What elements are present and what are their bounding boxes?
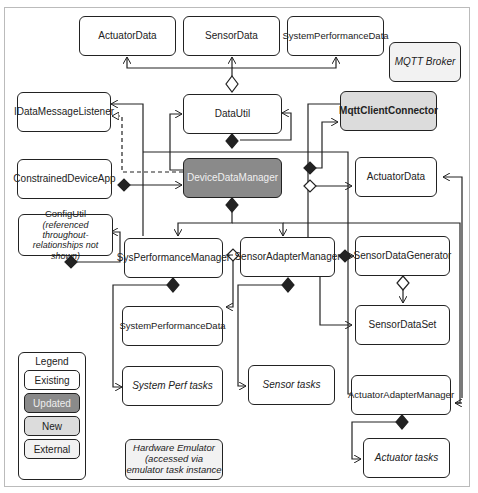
sensor-data-generator-box[interactable]: SensorDataGenerator [355, 236, 450, 276]
legend-title: Legend [19, 356, 85, 367]
config-util-note: (referenced throughout-relationships not… [19, 220, 112, 261]
mqtt-broker-box[interactable]: MQTT Broker [389, 42, 461, 82]
legend-updated: Updated [24, 393, 80, 413]
actuator-adapter-manager-box[interactable]: ActuatorAdapterManager [351, 375, 451, 415]
constrained-device-app-box[interactable]: ConstrainedDeviceApp [17, 159, 112, 199]
actuator-data-right-box[interactable]: ActuatorData [355, 157, 437, 197]
device-data-manager-box[interactable]: DeviceDataManager [183, 158, 282, 198]
sys-performance-manager-box[interactable]: SysPerformanceManager [124, 238, 223, 278]
legend-existing: Existing [24, 370, 80, 390]
legend-new: New [24, 416, 80, 436]
sensor-tasks-box[interactable]: Sensor tasks [248, 365, 335, 405]
system-performance-data-bottom-box[interactable]: SystemPerformanceData [122, 306, 223, 346]
mqtt-client-connector-box[interactable]: MqttClientConnector [340, 91, 437, 131]
idata-message-listener-box[interactable]: IDataMessageListener [17, 92, 111, 132]
data-util-box[interactable]: DataUtil [183, 94, 282, 134]
legend-external: External [24, 439, 80, 459]
config-util-box[interactable]: ConfigUtil (referenced throughout-relati… [18, 214, 113, 256]
system-perf-tasks-box[interactable]: System Perf tasks [122, 366, 223, 406]
sensor-data-box[interactable]: SensorData [183, 16, 280, 56]
config-util-title: ConfigUtil [45, 209, 86, 220]
system-performance-data-top-box[interactable]: SystemPerformanceData [287, 16, 384, 56]
hardware-emulator-box[interactable]: Hardware Emulator (accessed via emulator… [125, 439, 223, 480]
sensor-data-set-box[interactable]: SensorDataSet [355, 305, 450, 345]
legend: Legend Existing Updated New External [18, 352, 86, 480]
actuator-data-top-box[interactable]: ActuatorData [79, 16, 176, 56]
sensor-adapter-manager-box[interactable]: SensorAdapterManager [240, 237, 335, 277]
actuator-tasks-box[interactable]: Actuator tasks [363, 438, 450, 478]
